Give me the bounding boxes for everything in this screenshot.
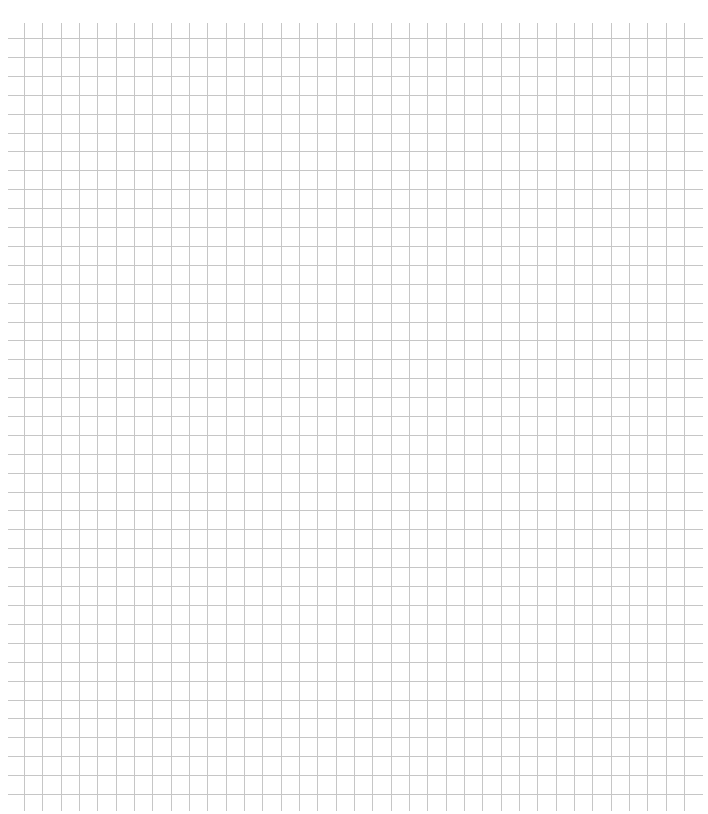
graph-paper-grid xyxy=(0,0,708,814)
